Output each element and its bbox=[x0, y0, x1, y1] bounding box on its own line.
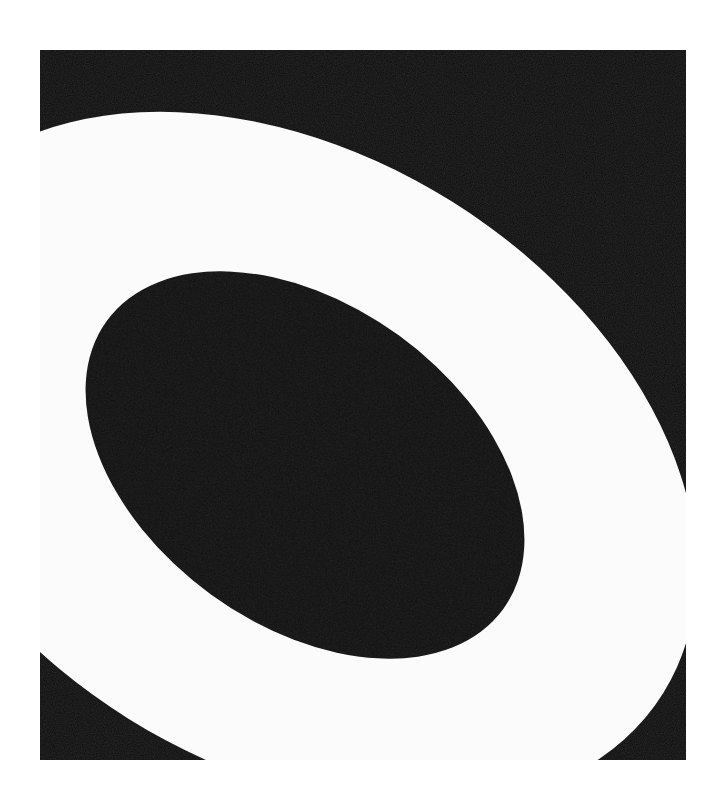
abstract-painting bbox=[40, 50, 686, 760]
painting-canvas bbox=[40, 50, 686, 760]
